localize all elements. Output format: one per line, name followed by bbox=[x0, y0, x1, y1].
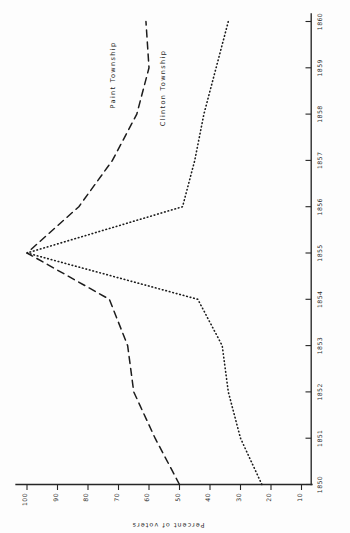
percent-tick-90: 90 bbox=[52, 485, 59, 502]
percent-tick-label: 90 bbox=[52, 493, 59, 502]
line-chart-plot: 100 90 80 70 60 50 bbox=[0, 0, 350, 533]
year-tick-label: 1855 bbox=[316, 244, 323, 261]
year-tick-1850: 1850 bbox=[306, 476, 324, 493]
year-tick-label: 1858 bbox=[316, 105, 323, 122]
series-label-clinton-township: Clinton Township bbox=[159, 50, 167, 126]
percent-tick-label: 80 bbox=[82, 493, 89, 502]
percent-tick-label: 40 bbox=[204, 493, 211, 502]
year-tick-1851: 1851 bbox=[306, 430, 324, 447]
year-tick-1857: 1857 bbox=[306, 152, 324, 169]
year-ticks: 1850 1851 1852 1853 1854 1855 bbox=[306, 13, 324, 493]
percent-tick-60: 60 bbox=[143, 485, 150, 502]
year-tick-label: 1851 bbox=[316, 430, 323, 447]
percent-tick-label: 60 bbox=[143, 493, 150, 502]
percent-axis-title: Percent of voters bbox=[131, 521, 204, 529]
percent-tick-label: 20 bbox=[265, 493, 272, 502]
year-tick-1854: 1854 bbox=[306, 291, 324, 308]
chart-figure: 100 90 80 70 60 50 bbox=[0, 0, 350, 533]
year-tick-label: 1852 bbox=[316, 383, 323, 400]
year-tick-1852: 1852 bbox=[306, 383, 324, 400]
year-tick-1853: 1853 bbox=[306, 337, 324, 354]
percent-tick-10: 10 bbox=[296, 485, 303, 502]
year-tick-label: 1854 bbox=[316, 291, 323, 308]
percent-tick-label: 50 bbox=[174, 493, 181, 502]
percent-tick-label: 100 bbox=[21, 493, 28, 506]
series-label-paint-township: Paint Township bbox=[109, 42, 117, 109]
percent-tick-70: 70 bbox=[113, 485, 120, 502]
percent-tick-80: 80 bbox=[82, 485, 89, 502]
year-tick-1860: 1860 bbox=[306, 13, 324, 30]
year-tick-label: 1853 bbox=[316, 337, 323, 354]
percent-tick-40: 40 bbox=[204, 485, 211, 502]
percent-ticks: 100 90 80 70 60 50 bbox=[21, 485, 303, 507]
year-tick-label: 1859 bbox=[316, 59, 323, 76]
percent-tick-100: 100 bbox=[21, 485, 28, 507]
percent-tick-label: 30 bbox=[235, 493, 242, 502]
percent-tick-label: 10 bbox=[296, 493, 303, 502]
series-line-paint-township bbox=[27, 22, 180, 485]
percent-tick-50: 50 bbox=[174, 485, 181, 502]
year-tick-1858: 1858 bbox=[306, 105, 324, 122]
percent-tick-label: 70 bbox=[113, 493, 120, 502]
year-tick-1855: 1855 bbox=[306, 244, 324, 261]
year-tick-1856: 1856 bbox=[306, 198, 324, 215]
year-tick-label: 1856 bbox=[316, 198, 323, 215]
year-tick-1859: 1859 bbox=[306, 59, 324, 76]
percent-tick-20: 20 bbox=[265, 485, 272, 502]
percent-tick-30: 30 bbox=[235, 485, 242, 502]
year-tick-label: 1850 bbox=[316, 476, 323, 493]
year-tick-label: 1860 bbox=[316, 13, 323, 30]
year-tick-label: 1857 bbox=[316, 152, 323, 169]
